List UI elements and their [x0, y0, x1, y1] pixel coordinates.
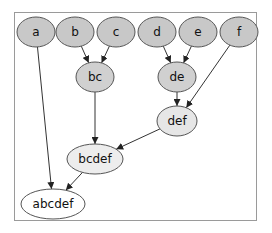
nodes-layer: abcdefbcdedefbcdefabcdef: [17, 17, 258, 219]
node-bcdef: bcdef: [67, 144, 123, 174]
node-label: e: [194, 25, 201, 39]
node-label: de: [170, 70, 185, 84]
edge-c-to-bc: [102, 46, 110, 63]
edge-bcdef-to-abcdef: [66, 172, 83, 190]
edge-a-to-abcdef: [37, 47, 51, 189]
node-a: a: [17, 17, 55, 47]
edges-layer: [37, 45, 229, 190]
node-abcdef: abcdef: [21, 189, 85, 219]
edge-e-to-de: [184, 46, 192, 63]
node-label: def: [167, 114, 187, 128]
node-label: b: [71, 25, 79, 39]
merge-graph: abcdefbcdedefbcdefabcdef: [0, 0, 272, 233]
node-def: def: [157, 106, 197, 136]
node-label: d: [153, 25, 161, 39]
edge-def-to-bcdef: [116, 129, 160, 149]
node-bc: bc: [76, 62, 114, 92]
node-b: b: [56, 17, 94, 47]
node-label: a: [32, 25, 39, 39]
node-e: e: [179, 17, 217, 47]
node-label: c: [113, 25, 120, 39]
node-label: bcdef: [78, 152, 112, 166]
node-f: f: [220, 17, 258, 47]
edge-b-to-bc: [81, 46, 88, 63]
node-c: c: [97, 17, 135, 47]
node-label: bc: [88, 70, 102, 84]
diagram-canvas: abcdefbcdedefbcdefabcdef: [0, 0, 272, 233]
node-label: abcdef: [33, 197, 75, 211]
node-d: d: [138, 17, 176, 47]
node-de: de: [158, 62, 196, 92]
edge-d-to-de: [163, 46, 170, 63]
